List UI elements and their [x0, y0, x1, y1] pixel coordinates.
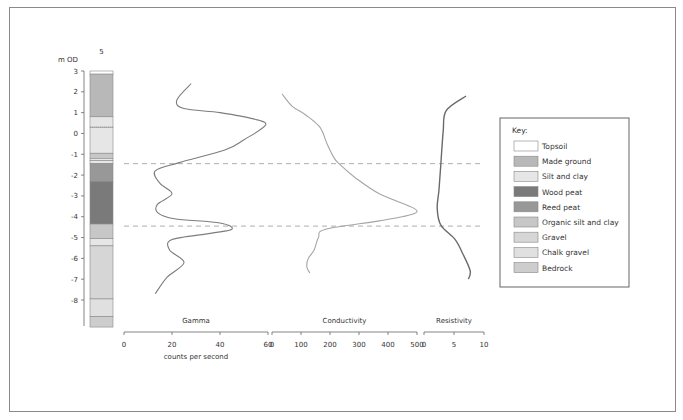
x-tick-label: 20 [168, 341, 177, 349]
resistivity-curve [437, 96, 470, 279]
legend-label: Wood peat [542, 188, 582, 197]
borehole-number: 5 [99, 48, 103, 56]
x-tick-label: 0 [122, 341, 126, 349]
legend-label: Reed peat [542, 203, 580, 212]
depth-tick-label: -2 [71, 172, 78, 180]
conductivity-title: Conductivity [323, 317, 367, 325]
legend-key: Key:TopsoilMade groundSilt and clayWood … [500, 118, 629, 287]
depth-tick-label: 1 [74, 109, 78, 117]
x-tick-label: 0 [422, 341, 426, 349]
legend-title: Key: [512, 126, 528, 135]
borehole-log-chart: m OD3210-1-2-3-4-5-6-7-8 5 0204060Gammac… [0, 0, 683, 420]
depth-tick-label: 0 [74, 130, 78, 138]
depth-tick-label: -7 [71, 276, 78, 284]
log-layer-silt-and-clay [90, 117, 113, 127]
log-layer-bedrock [90, 317, 113, 327]
legend-swatch [514, 217, 538, 227]
depth-tick-label: 3 [74, 68, 78, 76]
depth-axis-label: m OD [58, 56, 78, 64]
log-layer-wood-peat [90, 181, 113, 224]
legend-swatch [514, 171, 538, 181]
log-layer-topsoil [90, 71, 113, 74]
legend-swatch [514, 187, 538, 197]
legend-swatch [514, 141, 538, 151]
borehole-log-column: 5 [90, 48, 113, 327]
x-tick-label: 400 [381, 341, 394, 349]
log-layer-silt-and-clay [90, 127, 113, 153]
depth-tick-label: 2 [74, 88, 78, 96]
depth-tick-label: -1 [71, 151, 78, 159]
legend-swatch [514, 247, 538, 257]
legend-label: Topsoil [541, 142, 567, 151]
legend-label: Gravel [542, 233, 567, 242]
log-layer-organic-silt-and-clay [90, 224, 113, 239]
legend-swatch [514, 156, 538, 166]
resistivity-title: Resistivity [436, 317, 472, 325]
depth-tick-label: -5 [71, 234, 78, 242]
x-tick-label: 200 [323, 341, 336, 349]
log-layer-made-ground [90, 74, 113, 117]
legend-label: Made ground [542, 157, 592, 166]
boundary-dashed-lines [124, 164, 480, 226]
log-layer-organic-silt-and-clay [90, 153, 113, 158]
log-layer-chalk-gravel [90, 299, 113, 317]
legend-label: Bedrock [542, 264, 573, 273]
x-tick-label: 0 [270, 341, 274, 349]
depth-axis: m OD3210-1-2-3-4-5-6-7-8 [58, 56, 84, 326]
x-tick-label: 10 [480, 341, 489, 349]
depth-tick-label: -4 [71, 213, 79, 221]
legend-swatch [514, 232, 538, 242]
x-tick-label: 300 [352, 341, 365, 349]
gamma-title: Gamma [182, 317, 210, 325]
conductivity-curve [282, 94, 417, 273]
log-layer-silt-and-clay [90, 161, 113, 164]
depth-tick-label: -8 [71, 297, 78, 305]
depth-tick-label: -6 [71, 255, 79, 263]
geophysics-curves [154, 84, 470, 294]
x-axes: 0204060Gammacounts per second01002003004… [122, 317, 489, 361]
log-layer-silt-and-clay [90, 239, 113, 246]
x-tick-label: 5 [452, 341, 456, 349]
legend-label: Chalk gravel [542, 248, 589, 257]
legend-swatch [514, 202, 538, 212]
legend-label: Organic silt and clay [542, 218, 619, 227]
x-tick-label: 40 [216, 341, 225, 349]
legend-swatch [514, 263, 538, 273]
gamma-units-label: counts per second [164, 353, 228, 361]
gamma-curve [154, 84, 266, 294]
depth-tick-label: -3 [71, 192, 78, 200]
legend-label: Silt and clay [542, 172, 589, 181]
log-layer-silt-and-clay [90, 158, 113, 160]
log-layer-reed-peat [90, 164, 113, 182]
x-tick-label: 100 [294, 341, 307, 349]
log-layer-gravel [90, 246, 113, 299]
